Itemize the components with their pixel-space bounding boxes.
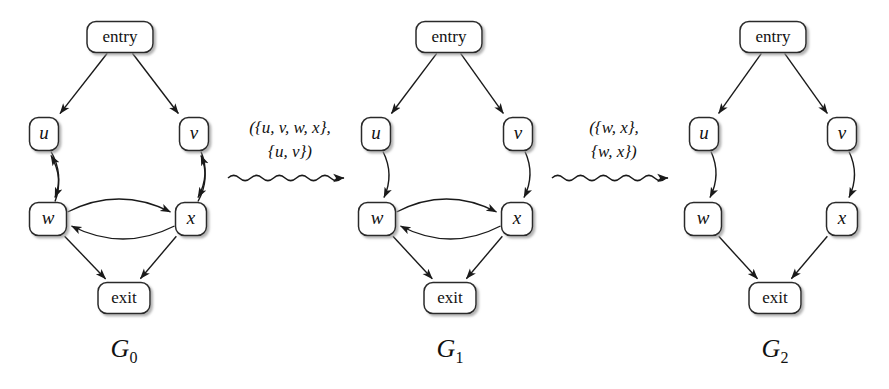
transition-label-line2: {u, v}): [268, 142, 312, 161]
edge-g2-entry-to-v: [785, 53, 828, 113]
edge-g2-w-to-exit: [719, 236, 758, 279]
edge-g1-w-to-exit: [393, 236, 432, 279]
node-label: u: [699, 122, 709, 143]
edge-g0-w-to-exit: [65, 236, 106, 279]
node-label: x: [837, 207, 847, 228]
node-g2-w[interactable]: w: [685, 203, 722, 236]
transition-label-line2: {w, x}): [591, 142, 637, 161]
edge-g2-entry-to-u: [719, 53, 762, 113]
node-label: exit: [111, 288, 137, 307]
node-g1-u[interactable]: u: [362, 118, 391, 151]
edge-g1-v-to-x: [524, 152, 530, 198]
node-label: entry: [756, 27, 791, 46]
edge-g1-u-to-w: [383, 152, 389, 198]
transition-squiggly-arrow: [552, 175, 668, 180]
node-label: w: [371, 207, 384, 228]
transitions-layer: ({u, v, w, x},{u, v})({w, x},{w, x}): [228, 118, 668, 181]
graph-name-text: G2: [762, 334, 789, 366]
graph-name-text: G0: [111, 334, 138, 366]
node-g0-entry[interactable]: entry: [87, 22, 153, 53]
node-g2-x[interactable]: x: [827, 203, 858, 236]
edge-g1-w-to-x: [397, 199, 497, 212]
edge-g0-w-to-u: [51, 156, 59, 202]
graph-name-g1: G1: [437, 334, 464, 366]
node-label: exit: [762, 288, 788, 307]
nodes-layer: entryuvwxexitentryuvwxexitentryuvwxexit: [30, 22, 858, 314]
node-g2-entry[interactable]: entry: [740, 22, 806, 53]
graph-name-g2: G2: [762, 334, 789, 366]
node-label: u: [39, 122, 49, 143]
graph-names-layer: G0G1G2: [111, 334, 789, 366]
node-g2-u[interactable]: u: [690, 118, 719, 151]
node-g0-x[interactable]: x: [176, 203, 207, 236]
node-g1-exit[interactable]: exit: [424, 283, 476, 314]
node-label: exit: [437, 288, 463, 307]
node-g0-w[interactable]: w: [30, 203, 67, 236]
edge-g0-x-to-exit: [140, 236, 176, 278]
edge-g0-entry-to-u: [60, 53, 107, 113]
transition-label-line1: ({w, x},: [589, 118, 639, 137]
node-label: v: [838, 122, 847, 143]
transition-t1: ({w, x},{w, x}): [552, 118, 668, 181]
node-label: v: [190, 122, 199, 143]
edge-g1-x-to-exit: [466, 236, 502, 278]
edge-g2-u-to-w: [710, 152, 716, 198]
edge-g0-w-to-x: [68, 199, 171, 212]
node-g1-entry[interactable]: entry: [416, 22, 482, 53]
edge-g1-entry-to-u: [391, 53, 436, 113]
edge-g0-entry-to-v: [132, 53, 178, 113]
node-label: x: [186, 207, 196, 228]
node-g0-v[interactable]: v: [180, 118, 209, 151]
edge-g2-x-to-exit: [791, 236, 827, 278]
node-g1-w[interactable]: w: [359, 203, 396, 236]
node-label: entry: [103, 27, 138, 46]
node-label: entry: [432, 27, 467, 46]
edge-g1-entry-to-v: [461, 53, 504, 113]
node-g0-u[interactable]: u: [30, 118, 59, 151]
node-g1-v[interactable]: v: [504, 118, 533, 151]
figure-canvas: entryuvwxexitentryuvwxexitentryuvwxexit …: [0, 0, 889, 389]
node-label: u: [371, 122, 381, 143]
node-g1-x[interactable]: x: [502, 203, 533, 236]
graph-transformation-diagram: entryuvwxexitentryuvwxexitentryuvwxexit …: [0, 0, 889, 389]
edge-g1-x-to-w: [401, 226, 501, 239]
edge-g0-x-to-w: [72, 226, 175, 239]
edge-g2-v-to-x: [849, 152, 855, 198]
edges-layer: [51, 53, 855, 279]
node-label: w: [697, 207, 710, 228]
graph-name-g0: G0: [111, 334, 138, 366]
node-g2-exit[interactable]: exit: [749, 283, 801, 314]
transition-label-line1: ({u, v, w, x},: [249, 118, 330, 137]
node-label: w: [42, 207, 55, 228]
graph-name-text: G1: [437, 334, 464, 366]
node-label: x: [512, 207, 522, 228]
node-g0-exit[interactable]: exit: [98, 283, 150, 314]
transition-t0: ({u, v, w, x},{u, v}): [228, 118, 344, 181]
node-g2-v[interactable]: v: [828, 118, 857, 151]
node-label: v: [514, 122, 523, 143]
transition-squiggly-arrow: [228, 175, 344, 180]
